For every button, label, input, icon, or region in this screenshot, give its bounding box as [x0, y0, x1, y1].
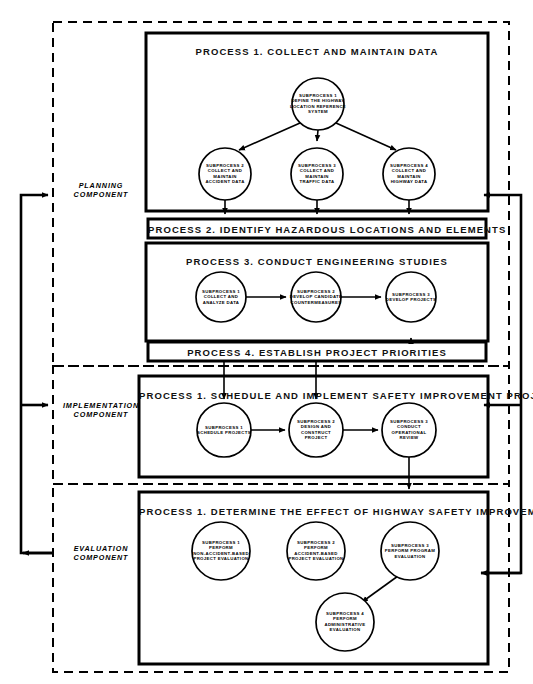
panel-title-process-1-collect: PROCESS 1. COLLECT AND MAINTAIN DATA: [146, 46, 488, 57]
node-label-im-sub1: SUBPROCESS 1 SCHEDULE PROJECTS: [194, 425, 254, 436]
component-label-implementation: IMPLEMENTATION COMPONENT: [55, 401, 147, 419]
connector-group-evaluation: [362, 576, 398, 602]
node-label-p1-sub2: SUBPROCESS 2 COLLECT AND MAINTAIN ACCIDE…: [196, 163, 254, 185]
component-label-evaluation: EVALUATION COMPONENT: [55, 544, 147, 562]
node-label-p3-sub3: SUBPROCESS 3 DEVELOP PROJECTS: [383, 292, 439, 303]
node-label-im-sub3: SUBPROCESS 3 CONDUCT OPERATIONAL REVIEW: [379, 419, 439, 441]
node-label-p3-sub1: SUBPROCESS 1 COLLECT AND ANALYZE DATA: [193, 289, 249, 305]
node-label-p3-sub2: SUBPROCESS 2 DEVELOP CANDIDATE COUNTERME…: [288, 289, 344, 305]
feedback-loop-left: [21, 195, 53, 553]
node-label-p1-sub4: SUBPROCESS 4 COLLECT AND MAINTAIN HIGHWA…: [380, 163, 438, 185]
bar-title-process-4-bar: PROCESS 4. ESTABLISH PROJECT PRIORITIES: [148, 347, 486, 358]
flowchart-canvas: PROCESS 1. COLLECT AND MAINTAIN DATAPROC…: [0, 0, 533, 684]
node-label-im-sub2: SUBPROCESS 2 DESIGN AND CONSTRUCT PROJEC…: [286, 419, 346, 441]
node-label-ev-sub2: SUBPROCESS 2 PERFORM ACCIDENT-BASED PROJ…: [284, 540, 348, 562]
node-label-ev-sub3: SUBPROCESS 3 PERFORM PROGRAM EVALUATION: [378, 543, 442, 559]
node-label-p1-sub3: SUBPROCESS 3 COLLECT AND MAINTAIN TRAFFI…: [288, 163, 346, 185]
node-label-p1-sub1: SUBPROCESS 1 DEFINE THE HIGHWAY LOCATION…: [289, 93, 347, 115]
node-label-ev-sub1: SUBPROCESS 1 PERFORM NON-ACCIDENT-BASED …: [189, 540, 253, 562]
panel-title-process-1-determine: PROCESS 1. DETERMINE THE EFFECT OF HIGHW…: [139, 506, 488, 517]
flowchart-vector-layer: [0, 0, 533, 684]
component-boundary-implementation: [53, 366, 509, 484]
component-label-planning: PLANNING COMPONENT: [55, 181, 147, 199]
panel-title-process-1-schedule: PROCESS 1. SCHEDULE AND IMPLEMENT SAFETY…: [139, 390, 488, 401]
panel-title-process-3-studies: PROCESS 3. CONDUCT ENGINEERING STUDIES: [146, 256, 488, 267]
bar-title-process-2-bar: PROCESS 2. IDENTIFY HAZARDOUS LOCATIONS …: [148, 224, 486, 235]
node-label-ev-sub4: SUBPROCESS 4 PERFORM ADMINISTRATIVE EVAL…: [313, 611, 377, 633]
